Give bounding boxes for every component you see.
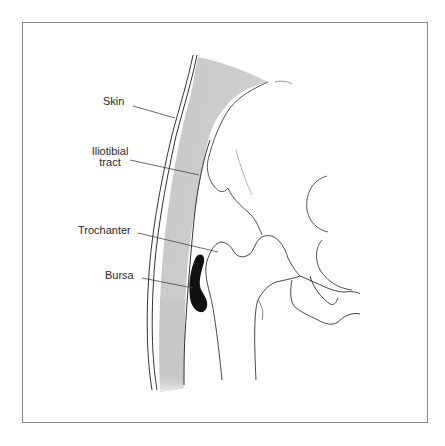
soft-tissue-band — [159, 57, 268, 392]
bursa-shape[interactable] — [189, 254, 207, 312]
femur-bone — [206, 236, 360, 380]
acetabulum-curves — [307, 176, 352, 290]
label-bursa: Bursa — [105, 270, 134, 281]
label-skin: Skin — [103, 96, 124, 107]
label-iliotibial-tract: Iliotibial tract — [88, 146, 132, 168]
skin-leader — [133, 106, 175, 118]
label-trochanter: Trochanter — [78, 225, 131, 236]
hip-anatomy-illustration — [0, 0, 445, 446]
label-iliotibial-line2: tract — [88, 157, 132, 168]
